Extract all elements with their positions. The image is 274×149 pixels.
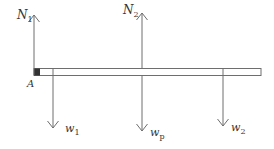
support-block [34, 69, 40, 76]
free-body-diagram: N1 N2 w1 wp w2 A [0, 0, 274, 149]
force-arrow-w1 [48, 69, 59, 129]
force-arrow-n2 [137, 13, 148, 69]
label-w2: w2 [231, 121, 246, 136]
force-arrow-wp [137, 76, 148, 132]
label-n2: N2 [122, 3, 139, 19]
label-wp: wp [150, 126, 165, 141]
label-point-a: A [26, 78, 34, 89]
label-w1: w1 [65, 122, 80, 137]
beam [34, 69, 261, 76]
force-arrow-w2 [218, 69, 229, 127]
force-arrow-n1 [29, 15, 40, 75]
label-n1: N1 [16, 8, 33, 24]
